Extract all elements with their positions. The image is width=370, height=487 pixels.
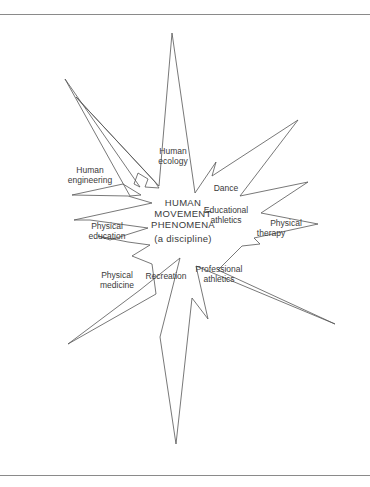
label-recreation: Recreation (141, 271, 191, 281)
center-line-4: (a discipline) (142, 233, 224, 244)
label-physical-medicine: Physical medicine (92, 270, 142, 290)
label-human-engineering: Human engineering (60, 165, 120, 185)
label-professional-athletics: Professional athletics (188, 264, 250, 284)
label-human-ecology: Human ecology (148, 146, 198, 166)
label-physical-education: Physical education (82, 221, 132, 241)
label-dance: Dance (206, 183, 246, 193)
label-physical-therapy: Physical therapy (240, 218, 310, 238)
